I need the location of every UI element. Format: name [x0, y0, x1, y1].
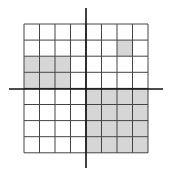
shaded-cell	[86, 88, 102, 104]
shaded-cell	[24, 72, 40, 88]
shaded-cell	[86, 121, 102, 137]
coordinate-grid	[0, 0, 169, 175]
shaded-cell	[40, 72, 56, 88]
shaded-cell	[117, 105, 133, 121]
shaded-cell	[86, 137, 102, 153]
shaded-cell	[117, 137, 133, 153]
shaded-cell	[24, 56, 40, 72]
shaded-cell	[133, 88, 149, 104]
shaded-cell	[40, 56, 56, 72]
shaded-cell	[102, 137, 118, 153]
shaded-cell	[55, 72, 71, 88]
shaded-cell	[133, 105, 149, 121]
shaded-cell	[117, 40, 133, 56]
shaded-cell	[102, 105, 118, 121]
shaded-cell	[117, 88, 133, 104]
shaded-cell	[55, 56, 71, 72]
shaded-cell	[102, 121, 118, 137]
shaded-cell	[133, 121, 149, 137]
shaded-cell	[117, 121, 133, 137]
shaded-cell	[86, 105, 102, 121]
shaded-cell	[133, 137, 149, 153]
shaded-cell	[102, 88, 118, 104]
